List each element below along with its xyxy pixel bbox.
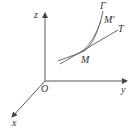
origin-label: O [41, 83, 48, 94]
diagram-canvas: O z y x Γ M' T M [0, 0, 136, 131]
tangent-t-label: T [118, 23, 125, 34]
point-m-label: M [80, 54, 90, 65]
x-axis-label: x [11, 117, 17, 128]
y-axis-label: y [120, 84, 126, 95]
curve-gamma-label: Γ [99, 0, 106, 11]
point-m-prime-label: M' [103, 14, 115, 25]
secant-m-mprime [82, 21, 101, 52]
z-axis-label: z [33, 9, 38, 20]
